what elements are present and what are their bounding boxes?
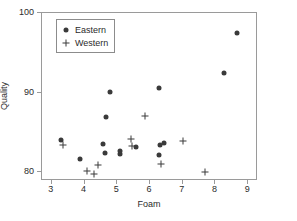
y-tick-label: 90 — [24, 87, 34, 97]
x-tick-label: 3 — [48, 184, 53, 194]
legend-label: Eastern — [75, 25, 106, 35]
x-tick-label: 9 — [245, 184, 250, 194]
y-axis-label: Quality — [0, 82, 9, 110]
data-point-western — [142, 113, 149, 120]
data-point-western — [83, 168, 90, 175]
data-point-western — [201, 169, 208, 176]
data-point-eastern — [107, 90, 112, 95]
circle-marker-icon — [61, 25, 71, 35]
data-point-eastern — [156, 85, 161, 90]
plus-marker-icon — [61, 38, 71, 48]
x-tick-label: 8 — [212, 184, 217, 194]
data-point-eastern — [118, 149, 123, 154]
data-point-western — [180, 137, 187, 144]
data-point-eastern — [78, 157, 83, 162]
x-tick-label: 7 — [179, 184, 184, 194]
legend-label: Western — [75, 38, 108, 48]
y-tick-mark — [37, 12, 41, 13]
x-tick-label: 5 — [114, 184, 119, 194]
data-point-eastern — [234, 30, 239, 35]
data-point-eastern — [102, 150, 107, 155]
y-tick-mark — [37, 171, 41, 172]
data-point-western — [158, 161, 165, 168]
legend-item-western[interactable]: Western — [61, 36, 108, 49]
scatter-plot-figure: 3456789 8090100 Foam Quality EasternWest… — [0, 0, 297, 221]
x-tick-label: 6 — [146, 184, 151, 194]
x-axis-label: Foam — [137, 199, 160, 209]
x-tick-label: 4 — [81, 184, 86, 194]
data-point-western — [95, 161, 102, 168]
data-point-western — [60, 141, 67, 148]
y-tick-label: 100 — [19, 7, 34, 17]
data-point-eastern — [156, 152, 161, 157]
legend-item-eastern[interactable]: Eastern — [61, 23, 108, 36]
data-point-eastern — [104, 115, 109, 120]
data-point-eastern — [161, 141, 166, 146]
data-point-eastern — [101, 142, 106, 147]
data-point-eastern — [222, 71, 227, 76]
legend: EasternWestern — [56, 19, 115, 53]
data-point-western — [91, 170, 98, 177]
y-tick-label: 80 — [24, 166, 34, 176]
y-tick-mark — [37, 92, 41, 93]
data-point-western — [128, 142, 135, 149]
